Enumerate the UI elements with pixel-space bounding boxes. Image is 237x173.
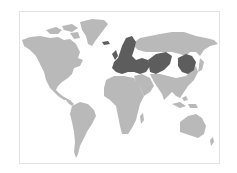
region-north-america [22, 36, 83, 100]
region-arctic-islands [46, 24, 80, 39]
region-madagascar [140, 113, 144, 124]
region-indonesia [172, 96, 198, 108]
region-japan [198, 58, 204, 72]
region-south-america [70, 102, 96, 158]
region-australia [180, 114, 206, 138]
region-central-asia-highlight [148, 52, 172, 74]
world-map [0, 0, 237, 173]
region-new-zealand [210, 137, 214, 146]
region-iceland-highlight [102, 41, 110, 45]
region-central-america [64, 97, 74, 106]
region-russia [132, 32, 218, 56]
